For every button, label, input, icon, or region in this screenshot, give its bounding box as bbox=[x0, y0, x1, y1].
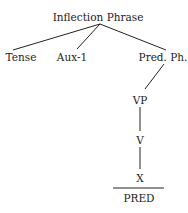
node-pred-ph: Pred. Ph. bbox=[139, 51, 188, 63]
edge-root-tense bbox=[13, 24, 100, 50]
tree-edges bbox=[0, 0, 188, 213]
edge-predph-vp bbox=[145, 64, 164, 89]
node-tense: Tense bbox=[6, 51, 37, 63]
edge-root-predph bbox=[100, 24, 166, 50]
node-pred: PRED bbox=[123, 192, 154, 204]
node-aux-1: Aux-1 bbox=[57, 51, 87, 63]
node-inflection-phrase: Inflection Phrase bbox=[53, 11, 144, 23]
node-x: X bbox=[136, 172, 143, 184]
node-vp: VP bbox=[133, 94, 148, 106]
node-v: V bbox=[136, 134, 144, 146]
